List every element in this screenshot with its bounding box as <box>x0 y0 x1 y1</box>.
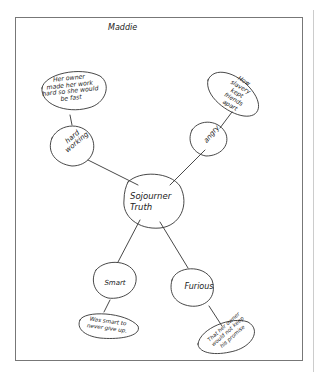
connector-never <box>104 300 110 312</box>
concept-map-drawing <box>0 0 319 372</box>
connector-furious <box>160 222 188 268</box>
trait-smart: Smart <box>100 280 130 287</box>
connector-cause <box>209 306 222 326</box>
connector-hard-working <box>88 160 138 185</box>
connector-angry <box>170 150 205 185</box>
student-name: Maddie <box>108 24 158 32</box>
center-topic-label: Sojourner Truth <box>130 191 174 214</box>
connector-smart <box>118 220 140 262</box>
connector-owner <box>70 115 72 125</box>
trait-furious: Furious <box>179 283 219 291</box>
